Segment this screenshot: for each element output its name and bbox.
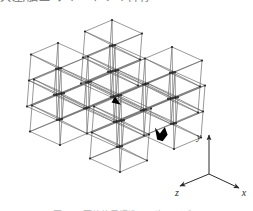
lattice-node (142, 109, 145, 112)
lattice-node (87, 55, 89, 57)
lattice-bar (176, 112, 203, 124)
lattice-node (83, 107, 85, 109)
lattice-node (142, 83, 144, 85)
lattice-bar (81, 58, 83, 84)
lattice-bar (175, 72, 176, 98)
lattice-bar (122, 135, 149, 147)
lattice-bar (119, 95, 121, 121)
lattice-bar (85, 20, 112, 32)
lattice-node (57, 67, 60, 70)
lattice-bar (91, 70, 118, 82)
lattice-bar (108, 46, 110, 72)
lattice-bar (62, 94, 63, 120)
lattice-bar (30, 120, 60, 132)
lattice-node (172, 122, 175, 125)
lattice-bar (176, 98, 177, 124)
lattice-bar (145, 47, 172, 59)
lattice-bar (149, 109, 151, 135)
axis-line-z (180, 174, 209, 186)
lattice-bar (89, 82, 90, 108)
lattice-node (171, 46, 173, 48)
lattice-bar (64, 82, 91, 94)
lattice-node (172, 97, 174, 99)
lattice-node (139, 58, 141, 60)
lattice-bar (57, 94, 59, 120)
lattice-bar (110, 20, 112, 46)
lattice-bar (111, 71, 113, 97)
lattice-node (145, 108, 147, 110)
lattice-bar (59, 68, 61, 94)
lattice-node (86, 132, 88, 134)
lattice-bar (147, 135, 149, 161)
lattice-node (60, 92, 63, 95)
lattice-bar (200, 61, 202, 87)
lattice-bar (86, 57, 88, 83)
lattice-bar (122, 120, 124, 146)
lattice-bar (30, 132, 60, 146)
lattice-bar (90, 147, 120, 159)
lattice-node (174, 96, 177, 99)
lattice-node (56, 119, 58, 121)
lattice-bar (31, 43, 58, 55)
lattice-node (58, 93, 60, 95)
lattice-bar (118, 70, 119, 96)
figure-page: 久差/脳血 サイーキ ゾイ科竹 y x z 図 1 八面体格子構造の三次元モデル (0, 0, 253, 211)
axis-line-x (209, 174, 239, 188)
axis-label-x: x (241, 187, 247, 198)
lattice-node (58, 118, 61, 121)
lattice-bar (116, 70, 118, 96)
lattice-node (63, 92, 65, 94)
lattice-bar (86, 83, 87, 109)
lattice-node (115, 95, 117, 97)
lattice-node (113, 121, 115, 123)
lattice-node (197, 111, 199, 113)
lattice-node (118, 145, 121, 148)
lattice-bar (87, 108, 115, 122)
lattice-bar (84, 83, 86, 109)
lattice-bar (173, 98, 174, 124)
lattice-bar (29, 55, 31, 81)
lattice-bar (87, 108, 89, 134)
lattice-bar (203, 86, 205, 112)
lattice-bar (89, 82, 91, 108)
lattice-bar (143, 59, 145, 85)
support-blob-marker (155, 127, 168, 141)
lattice-node (115, 120, 118, 123)
lattice-node (141, 32, 143, 34)
lattice-bar (61, 68, 62, 94)
lattice-node (85, 81, 87, 83)
lattice-node (121, 145, 123, 147)
lattice-bar (144, 110, 172, 124)
lattice-node (169, 97, 172, 100)
lattice-bar (118, 59, 145, 71)
lattice-node (177, 96, 179, 98)
lattice-node (90, 80, 92, 82)
lattice-bar (62, 108, 89, 120)
lattice-node (109, 45, 111, 47)
lattice-bar (172, 47, 202, 61)
lattice-bar (120, 147, 148, 161)
lattice-node (82, 56, 84, 58)
lattice-bar (111, 72, 139, 86)
lattice-node (143, 134, 145, 136)
lattice-node (53, 94, 55, 96)
lattice-bar (172, 47, 173, 73)
lattice-node (201, 59, 203, 61)
lattice-bar (87, 108, 88, 134)
lattice-bar (83, 32, 85, 58)
lattice-node (107, 71, 109, 73)
axis-label-z: z (174, 187, 179, 198)
lattice-bar (54, 69, 56, 95)
lattice-node (146, 159, 148, 161)
lattice-node (111, 19, 113, 21)
lattice-node (148, 133, 150, 135)
lattice-bar (60, 120, 61, 146)
lattice-node (144, 83, 147, 86)
lattice-bar (115, 45, 116, 71)
lattice-bar (32, 80, 34, 106)
lattice-bar (88, 45, 115, 57)
lattice-node (123, 119, 125, 121)
lattice-node (204, 84, 206, 86)
lattice-node (33, 78, 35, 80)
coordinate-axes-indicator: y x z (168, 128, 250, 198)
